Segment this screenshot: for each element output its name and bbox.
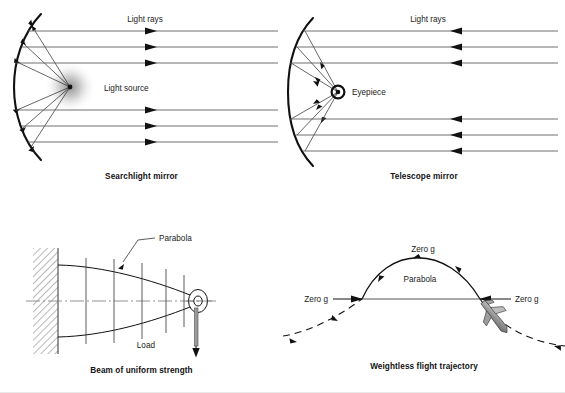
trajectory-dashed-exit <box>480 299 565 346</box>
panel-beam-of-uniform-strength: Parabola Load Beam of uniform strength <box>0 196 283 393</box>
parabola-label: Parabola <box>159 234 192 243</box>
aircraft-icon <box>474 294 518 340</box>
caption-weightless-flight-trajectory: Weightless flight trajectory <box>283 362 565 371</box>
figure-sheet: Light rays Light source Searchlight mirr… <box>0 0 565 393</box>
trajectory-dashed-entry <box>283 299 362 336</box>
zero-g-left-label: Zero g <box>304 295 328 304</box>
eyepiece-label: Eyepiece <box>352 88 386 97</box>
beam-profile-bottom <box>58 307 190 337</box>
caption-telescope-mirror: Telescope mirror <box>283 172 565 181</box>
telescope-mirror-drawing: Light rays Eyepiece <box>283 0 565 196</box>
panel-searchlight-mirror: Light rays Light source Searchlight mirr… <box>0 0 283 196</box>
light-rays-label: Light rays <box>127 15 163 24</box>
light-ray-arrowheads <box>450 28 462 155</box>
beam-end-eye <box>186 290 212 313</box>
load-indicator <box>192 308 199 358</box>
searchlight-mirror-drawing: Light rays Light source <box>0 0 283 196</box>
incoming-light-rays <box>290 31 558 151</box>
panel-weightless-flight-trajectory: Zero g Parabola Zero g Zero g Weightless… <box>283 196 565 393</box>
light-rays-label: Light rays <box>410 15 446 24</box>
parabola-label: Parabola <box>404 275 437 284</box>
caption-beam-of-uniform-strength: Beam of uniform strength <box>0 366 283 375</box>
zero-g-left-arrowhead <box>351 295 363 302</box>
light-source-point <box>68 85 73 90</box>
eyepiece-icon <box>332 86 345 99</box>
converging-ray-arrowheads <box>312 61 327 124</box>
load-label: Load <box>137 341 156 350</box>
beam-profile-top <box>58 265 190 295</box>
light-source-label: Light source <box>104 84 149 93</box>
beam-drawing: Parabola Load <box>0 196 283 393</box>
zero-g-right-label: Zero g <box>515 295 539 304</box>
caption-searchlight-mirror: Searchlight mirror <box>0 172 283 181</box>
zero-g-top-label: Zero g <box>411 245 435 254</box>
panel-telescope-mirror: Light rays Eyepiece Telescope mirror <box>283 0 565 196</box>
parabola-leader-line <box>118 238 155 271</box>
